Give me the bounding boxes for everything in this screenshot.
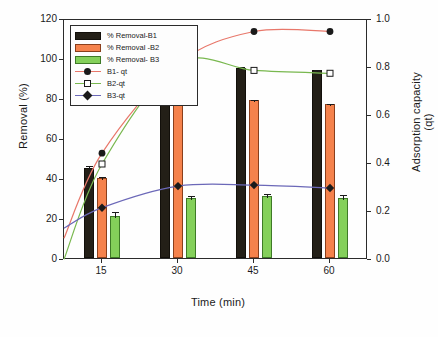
plot-area: (a) % Removal-B1% Removal -B2% Removal- …: [63, 19, 367, 259]
legend: % Removal-B1% Removal -B2% Removal- B3B1…: [70, 25, 198, 106]
legend-swatch-icon: [75, 56, 101, 64]
marker-b3-qt-45: [250, 181, 258, 189]
y-tick-left-60: 60: [27, 133, 57, 144]
legend-line-icon: [75, 91, 101, 100]
marker-b3-qt-15: [98, 203, 106, 211]
y-tick-right-0.8: 0.8: [376, 61, 406, 72]
legend-item-label: B2-qt: [107, 79, 125, 88]
y-tick-left-20: 20: [27, 213, 57, 224]
x-tick-60: 60: [309, 265, 349, 276]
y-tick-left-0: 0: [27, 253, 57, 264]
y-tick-right-0.0: 0.0: [376, 253, 406, 264]
legend-item-label: % Removal-B1: [107, 31, 157, 40]
y-tick-left-80: 80: [27, 93, 57, 104]
legend-item-2: % Removal -B2: [75, 42, 193, 53]
marker-b1-qt-60: [327, 28, 334, 35]
tick-mark: [59, 259, 63, 260]
legend-item-6: B3-qt: [75, 90, 193, 101]
y-tick-right-0.2: 0.2: [376, 205, 406, 216]
y-axis-left-title: Removal (%): [17, 56, 29, 176]
y-axis-right-title: Adsorption capacity (qt): [410, 62, 434, 182]
marker-b3-qt-30: [174, 182, 182, 190]
x-axis-title: Time (min): [63, 296, 373, 308]
legend-line-icon: [75, 67, 101, 76]
x-tick-15: 15: [81, 265, 121, 276]
legend-item-5: B2-qt: [75, 78, 193, 89]
y-tick-left-120: 120: [27, 13, 57, 24]
marker-b1-qt-45: [251, 28, 258, 35]
legend-line-icon: [75, 79, 101, 88]
legend-item-1: % Removal-B1: [75, 30, 193, 41]
x-tick-45: 45: [233, 265, 273, 276]
marker-b1-qt-15: [99, 150, 106, 157]
y-tick-left-40: 40: [27, 173, 57, 184]
legend-item-3: % Removal- B3: [75, 54, 193, 65]
y-tick-right-0.4: 0.4: [376, 157, 406, 168]
marker-b3-qt-60: [326, 184, 334, 192]
legend-item-label: B1- qt: [107, 67, 127, 76]
x-tick-30: 30: [157, 265, 197, 276]
legend-item-label: % Removal- B3: [107, 55, 159, 64]
marker-b2-qt-60: [327, 70, 333, 76]
figure-panel-a: Removal (%) Adsorption capacity (qt) Tim…: [0, 0, 438, 337]
legend-item-label: B3-qt: [107, 91, 125, 100]
y-tick-right-0.6: 0.6: [376, 109, 406, 120]
marker-b2-qt-45: [251, 67, 257, 73]
legend-swatch-icon: [75, 44, 101, 52]
y-tick-left-100: 100: [27, 53, 57, 64]
legend-item-4: B1- qt: [75, 66, 193, 77]
legend-swatch-icon: [75, 32, 101, 40]
legend-item-label: % Removal -B2: [107, 43, 159, 52]
marker-b2-qt-15: [99, 161, 105, 167]
y-tick-right-1.0: 1.0: [376, 13, 406, 24]
